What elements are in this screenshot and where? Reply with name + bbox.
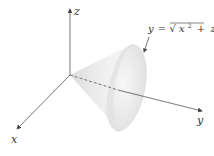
cone-diagram: z x y y = √ x 2 + z 2 xyxy=(0,0,214,156)
equation-x: x xyxy=(179,23,185,34)
y-axis-label: y xyxy=(196,114,204,127)
equation-z: z xyxy=(209,23,214,34)
equation-lhs: y xyxy=(147,23,154,34)
x-axis xyxy=(17,75,70,129)
equation-pointer-arrow xyxy=(144,37,149,52)
svg-text:y = √ x: y = √ x 2 + z 2 xyxy=(147,19,214,34)
x-axis-label: x xyxy=(11,133,18,146)
z-axis-label: z xyxy=(73,5,80,18)
equation-label: y = √ x 2 + z 2 xyxy=(147,19,214,34)
equation-equals: = xyxy=(158,23,166,34)
equation-plus: + xyxy=(197,23,205,34)
equation-sqrt: √ xyxy=(169,23,176,34)
